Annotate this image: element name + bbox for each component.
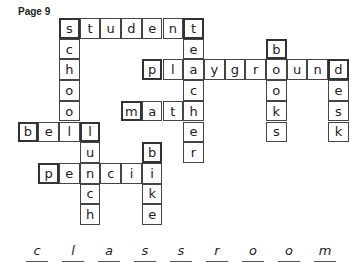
crossword-cell[interactable]: t [163,101,184,122]
crossword-cell[interactable]: b [18,122,39,143]
crossword-cell[interactable]: u [80,142,101,163]
crossword-cell[interactable]: g [225,59,246,80]
crossword-cell[interactable]: y [204,59,225,80]
crossword-cell[interactable]: k [328,122,349,143]
answer-letter-slot[interactable]: c [26,243,48,262]
crossword-cell[interactable]: r [183,142,204,163]
answer-letter-slot[interactable]: o [278,243,300,262]
crossword-cell[interactable]: n [307,59,328,80]
crossword-cell[interactable]: b [266,39,287,60]
crossword-cell[interactable]: o [59,80,80,101]
answer-letter-slot[interactable]: s [134,243,156,262]
crossword-cell[interactable]: l [80,122,101,143]
crossword-cell[interactable]: s [328,101,349,122]
crossword-cell[interactable]: r [245,59,266,80]
crossword-cell[interactable]: a [142,101,163,122]
crossword-cell[interactable]: c [80,184,101,205]
answer-letter-slot[interactable]: l [62,243,84,262]
crossword-cell[interactable]: e [38,122,59,143]
crossword-cell[interactable]: d [121,18,142,39]
crossword-cell[interactable]: h [80,204,101,225]
crossword-cell[interactable]: n [163,18,184,39]
crossword-cell[interactable]: u [287,59,308,80]
crossword-cell[interactable]: s [266,122,287,143]
crossword-cell[interactable]: e [142,18,163,39]
crossword-cell[interactable]: h [59,59,80,80]
answer-letter-slot[interactable]: r [206,243,228,262]
crossword-cell[interactable]: e [59,163,80,184]
crossword-cell[interactable]: i [142,163,163,184]
crossword-cell[interactable]: e [183,122,204,143]
crossword-cell[interactable]: c [183,80,204,101]
crossword-cell[interactable]: l [59,122,80,143]
crossword-cell[interactable]: o [266,59,287,80]
answer-letter-slot[interactable]: o [242,243,264,262]
crossword-cell[interactable]: l [163,59,184,80]
crossword-cell[interactable]: c [59,39,80,60]
crossword-cell[interactable]: d [328,59,349,80]
crossword-cell[interactable]: b [142,142,163,163]
crossword-cell[interactable]: n [80,163,101,184]
crossword-grid: studentchooleacherbooksplygrundeskmatbel… [0,0,356,230]
crossword-cell[interactable]: u [100,18,121,39]
crossword-cell[interactable]: e [183,39,204,60]
answer-letter-slot[interactable]: m [314,243,336,262]
crossword-cell[interactable]: k [266,101,287,122]
crossword-cell[interactable]: t [183,18,204,39]
crossword-cell[interactable]: c [100,163,121,184]
crossword-cell[interactable]: t [80,18,101,39]
crossword-cell[interactable]: o [266,80,287,101]
crossword-cell[interactable]: p [142,59,163,80]
crossword-cell[interactable]: h [183,101,204,122]
crossword-cell[interactable]: k [142,184,163,205]
crossword-cell[interactable]: p [38,163,59,184]
answer-letter-slot[interactable]: s [170,243,192,262]
crossword-cell[interactable]: o [59,101,80,122]
crossword-cell[interactable]: e [142,204,163,225]
crossword-cell[interactable]: m [121,101,142,122]
hidden-word-answer: classroom [26,243,336,262]
crossword-cell[interactable]: s [59,18,80,39]
crossword-cell[interactable]: e [328,80,349,101]
crossword-cell[interactable]: a [183,59,204,80]
answer-letter-slot[interactable]: a [98,243,120,262]
crossword-cell[interactable]: i [121,163,142,184]
